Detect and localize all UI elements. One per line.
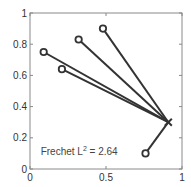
x-tick-label: 0 (27, 172, 33, 183)
circle-marker (142, 150, 148, 156)
frechet-chart: 00.20.40.60.81 00.51 Frechet L2 = 2.64 (0, 0, 191, 187)
y-tick-label: 0.2 (13, 132, 27, 143)
circle-marker (59, 66, 65, 72)
y-tick-label: 0.6 (13, 70, 27, 81)
y-tick-label: 0.4 (13, 101, 27, 112)
y-tick-label: 1 (21, 8, 27, 19)
circle-marker (100, 25, 106, 31)
annotation-prefix: Frechet L (41, 146, 84, 157)
x-tick-label: 0.5 (99, 172, 113, 183)
frechet-annotation: Frechet L2 = 2.64 (41, 145, 118, 157)
circle-marker (40, 49, 46, 55)
annotation-value: = 2.64 (87, 146, 118, 157)
y-tick-label: 0.8 (13, 39, 27, 50)
x-tick-label: 1 (179, 172, 185, 183)
circle-marker (75, 36, 81, 42)
